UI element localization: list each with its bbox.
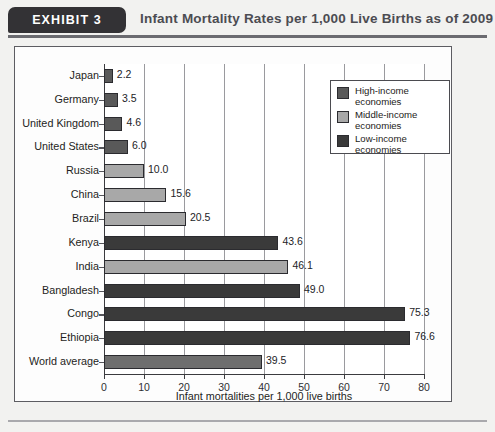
exhibit-header: EXHIBIT 3 Infant Mortality Rates per 1,0… bbox=[0, 0, 495, 40]
bar-value-label: 10.0 bbox=[148, 163, 168, 175]
header-divider bbox=[8, 35, 487, 38]
bar-row[interactable]: 76.6 bbox=[104, 326, 424, 350]
y-axis-tick bbox=[99, 362, 104, 363]
category-label: Germany bbox=[55, 93, 99, 105]
bar[interactable] bbox=[104, 140, 128, 154]
y-axis-tick bbox=[99, 291, 104, 292]
bar[interactable] bbox=[104, 331, 410, 345]
legend-swatch bbox=[337, 135, 349, 147]
category-label: United States bbox=[34, 140, 99, 152]
category-label: Kenya bbox=[68, 236, 99, 248]
bar-row[interactable]: 10.0 bbox=[104, 159, 424, 183]
exhibit-badge: EXHIBIT 3 bbox=[8, 7, 126, 33]
y-axis-tick bbox=[99, 76, 104, 77]
bar-value-label: 49.0 bbox=[304, 283, 324, 295]
footer-divider bbox=[8, 420, 487, 422]
y-axis-tick bbox=[99, 267, 104, 268]
bar[interactable] bbox=[104, 236, 278, 250]
page-title: Infant Mortality Rates per 1,000 Live Bi… bbox=[140, 11, 493, 26]
bar[interactable] bbox=[104, 93, 118, 107]
bar-value-label: 4.6 bbox=[126, 116, 141, 128]
bar[interactable] bbox=[104, 188, 166, 202]
category-label: Congo bbox=[67, 307, 99, 319]
bar-value-label: 46.1 bbox=[292, 259, 312, 271]
legend-item[interactable]: Middle-incomeeconomies bbox=[337, 110, 445, 131]
y-axis-tick bbox=[99, 171, 104, 172]
x-axis-title: Infant mortalities per 1,000 live births bbox=[104, 390, 424, 402]
exhibit-badge-label: EXHIBIT 3 bbox=[32, 13, 102, 27]
bar-row[interactable]: 39.5 bbox=[104, 350, 424, 374]
legend-label: High-incomeeconomies bbox=[355, 86, 409, 107]
bar-row[interactable]: 75.3 bbox=[104, 302, 424, 326]
bar-value-label: 76.6 bbox=[414, 330, 434, 342]
bar-row[interactable]: 49.0 bbox=[104, 279, 424, 303]
legend-label: Middle-incomeeconomies bbox=[355, 110, 417, 131]
bar-value-label: 15.6 bbox=[170, 187, 190, 199]
bar[interactable] bbox=[104, 164, 144, 178]
bar-value-label: 2.2 bbox=[117, 68, 132, 80]
category-label: Ethiopia bbox=[60, 331, 99, 343]
chart-legend: High-incomeeconomiesMiddle-incomeeconomi… bbox=[330, 80, 450, 154]
bar[interactable] bbox=[104, 307, 405, 321]
category-label: Russia bbox=[66, 164, 99, 176]
bar-row[interactable]: 46.1 bbox=[104, 255, 424, 279]
category-label: World average bbox=[29, 355, 99, 367]
bar[interactable] bbox=[104, 260, 288, 274]
y-axis-tick bbox=[99, 147, 104, 148]
category-label: China bbox=[71, 188, 99, 200]
legend-label-line1: High-income bbox=[355, 86, 409, 97]
category-label: India bbox=[76, 260, 99, 272]
category-label: Japan bbox=[70, 69, 99, 81]
bar[interactable] bbox=[104, 212, 186, 226]
y-axis-tick bbox=[99, 124, 104, 125]
bar-value-label: 75.3 bbox=[409, 306, 429, 318]
y-axis-tick bbox=[99, 219, 104, 220]
bar[interactable] bbox=[104, 284, 300, 298]
bar-value-label: 6.0 bbox=[132, 139, 147, 151]
x-axis-line bbox=[104, 374, 425, 375]
y-axis-tick bbox=[99, 195, 104, 196]
legend-label-line2: economies bbox=[355, 97, 409, 108]
bar-value-label: 43.6 bbox=[282, 235, 302, 247]
bar-value-label: 39.5 bbox=[266, 354, 286, 366]
bar[interactable] bbox=[104, 355, 262, 369]
legend-label: Low-incomeeconomies bbox=[355, 134, 407, 155]
bar-row[interactable]: 20.5 bbox=[104, 207, 424, 231]
category-labels: JapanGermanyUnited KingdomUnited StatesR… bbox=[0, 64, 99, 374]
legend-swatch bbox=[337, 87, 349, 99]
legend-item[interactable]: Low-incomeeconomies bbox=[337, 134, 445, 155]
y-axis-tick bbox=[99, 100, 104, 101]
bar-row[interactable]: 43.6 bbox=[104, 231, 424, 255]
bar[interactable] bbox=[104, 69, 113, 83]
legend-label-line2: economies bbox=[355, 121, 417, 132]
y-axis-tick bbox=[99, 338, 104, 339]
bar-value-label: 20.5 bbox=[190, 211, 210, 223]
category-label: Bangladesh bbox=[42, 284, 99, 296]
bar-value-label: 3.5 bbox=[122, 92, 137, 104]
category-label: Brazil bbox=[72, 212, 99, 224]
legend-item[interactable]: High-incomeeconomies bbox=[337, 86, 445, 107]
legend-swatch bbox=[337, 111, 349, 123]
y-axis-tick bbox=[99, 314, 104, 315]
category-label: United Kingdom bbox=[22, 117, 99, 129]
legend-label-line2: economies bbox=[355, 145, 407, 156]
bar-row[interactable]: 15.6 bbox=[104, 183, 424, 207]
bar[interactable] bbox=[104, 117, 122, 131]
y-axis-tick bbox=[99, 243, 104, 244]
